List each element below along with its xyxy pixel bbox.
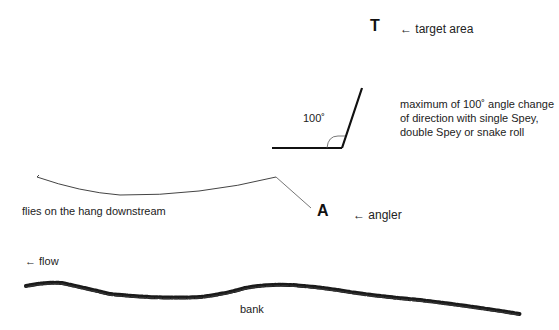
- angle-note: maximum of 100˚ angle change of directio…: [400, 97, 559, 139]
- flies-label: flies on the hang downstream: [22, 204, 166, 218]
- flow-label: ← flow: [25, 254, 59, 268]
- bank-line: [26, 283, 520, 315]
- target-marker: T: [370, 17, 380, 35]
- angle-value: 100˚: [303, 111, 325, 125]
- angler-label: ← angler: [353, 208, 402, 222]
- bank-label: bank: [240, 302, 264, 316]
- target-area-label: ← target area: [400, 22, 473, 36]
- angler-marker: A: [317, 202, 329, 220]
